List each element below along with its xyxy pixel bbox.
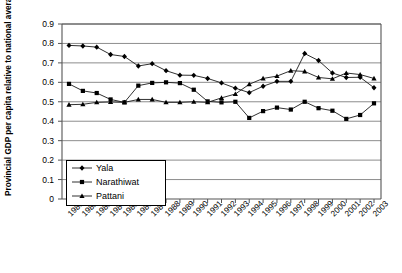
data-point	[95, 91, 99, 95]
data-point	[344, 70, 349, 75]
legend-marker	[80, 180, 84, 184]
legend-label: Pattani	[96, 191, 124, 201]
legend-marker-triangle-icon	[71, 191, 93, 201]
data-point	[247, 116, 251, 120]
data-point	[233, 100, 237, 104]
data-point	[150, 81, 154, 85]
data-point	[316, 75, 321, 80]
data-point	[136, 84, 140, 88]
legend-item-pattani: Pattani	[67, 189, 165, 203]
legend-label: Narathiwat	[96, 177, 139, 187]
data-point	[192, 88, 196, 92]
data-point	[150, 61, 155, 66]
data-point	[372, 85, 377, 90]
data-point	[205, 76, 210, 81]
data-point	[191, 73, 196, 78]
data-point	[275, 106, 279, 110]
legend-marker	[80, 165, 85, 170]
data-point	[164, 68, 169, 73]
data-point	[344, 75, 349, 80]
data-point	[219, 100, 223, 104]
legend-item-narathiwat: Narathiwat	[67, 175, 165, 189]
data-point	[344, 117, 348, 121]
data-point	[261, 84, 266, 89]
data-point	[122, 54, 127, 59]
data-point	[247, 90, 252, 95]
series-narathiwat	[67, 80, 376, 121]
data-point	[289, 107, 293, 111]
data-point	[302, 51, 307, 56]
data-point	[80, 43, 85, 48]
data-point	[274, 79, 279, 84]
series-yala	[67, 43, 377, 96]
legend-item-yala: Yala	[67, 161, 165, 175]
data-point	[288, 79, 293, 84]
data-point	[233, 85, 238, 90]
data-point	[164, 80, 168, 84]
legend-label: Yala	[96, 163, 113, 173]
legend-marker-diamond-icon	[71, 163, 93, 173]
chart-legend: YalaNarathiwatPattani	[66, 160, 166, 206]
data-point	[372, 101, 376, 105]
data-point	[67, 82, 71, 86]
data-point	[303, 100, 307, 104]
data-point	[94, 44, 99, 49]
data-point	[358, 113, 362, 117]
data-point	[108, 52, 113, 57]
data-point	[219, 80, 224, 85]
data-point	[261, 109, 265, 113]
data-point	[330, 109, 334, 113]
data-point	[81, 89, 85, 93]
data-point	[136, 63, 141, 68]
data-point	[316, 106, 320, 110]
legend-marker-square-icon	[71, 177, 93, 187]
data-point	[178, 81, 182, 85]
plot-area	[0, 0, 402, 273]
data-point	[177, 72, 182, 77]
chart-container: Provincial GDP per capita relative to na…	[0, 0, 402, 273]
data-point	[233, 91, 238, 96]
